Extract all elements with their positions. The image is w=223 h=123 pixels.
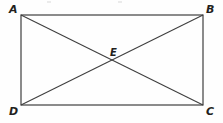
intersection-label-e: E: [110, 48, 117, 58]
vertex-label-d: D: [9, 106, 18, 117]
vertex-label-b: B: [206, 4, 214, 15]
geometry-figure: A B C D E: [0, 0, 223, 123]
vertex-label-a: A: [9, 4, 18, 15]
figure-canvas: [0, 0, 223, 123]
vertex-label-c: C: [206, 106, 214, 117]
